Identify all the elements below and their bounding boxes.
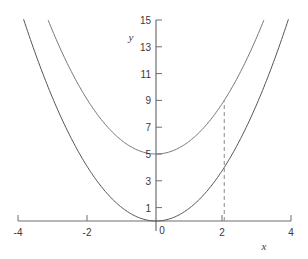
y-tick-label-3: 3 (145, 176, 151, 187)
y-tick-label-15: 15 (140, 15, 152, 26)
y-tick-label-7: 7 (145, 122, 151, 133)
chart-screenshot: 15 13 11 9 7 5 3 1 -4 -2 0 2 4 y x (0, 0, 308, 259)
parabola-plot: 15 13 11 9 7 5 3 1 -4 -2 0 2 4 y x (0, 0, 308, 259)
x-tick-label-minus2: -2 (83, 227, 92, 238)
y-tick-label-11: 11 (141, 69, 152, 80)
y-tick-label-1: 1 (145, 203, 151, 214)
x-tick-label-origin: 0 (159, 225, 165, 236)
y-tick-label-9: 9 (145, 95, 151, 106)
x-axis-title: x (261, 240, 267, 252)
y-tick-label-5: 5 (145, 149, 151, 160)
x-tick-label-2: 2 (219, 227, 225, 238)
x-tick-label-4: 4 (288, 227, 294, 238)
x-tick-label-minus4: -4 (14, 227, 23, 238)
y-tick-label-13: 13 (140, 42, 152, 53)
y-axis-title: y (128, 31, 134, 43)
